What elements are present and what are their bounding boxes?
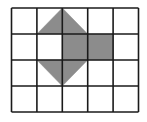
shaded-shape: [37, 8, 113, 86]
grid-figure: [0, 0, 147, 122]
